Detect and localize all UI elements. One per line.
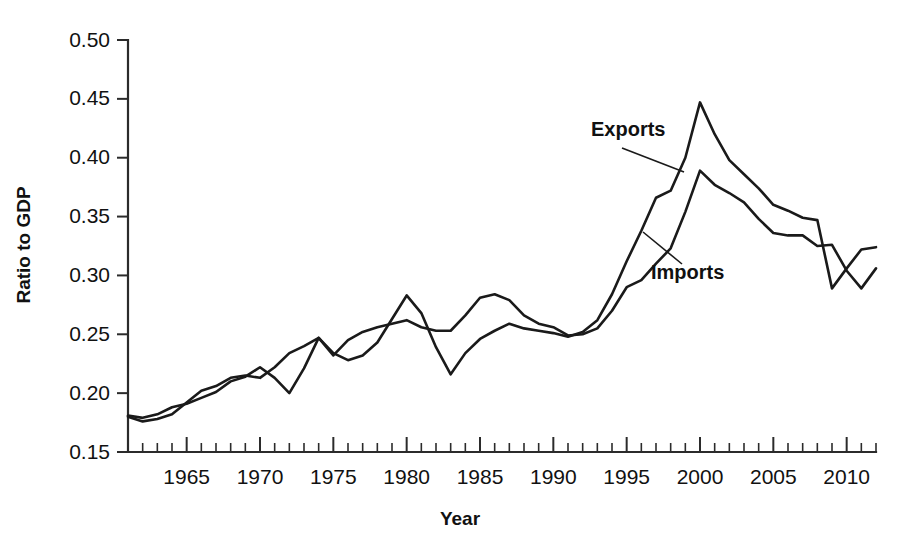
x-tick-label-2000: 2000 [677,465,724,488]
series-line-imports [128,171,876,422]
x-tick-label-1965: 1965 [163,465,210,488]
x-axis-title: Year [440,508,481,529]
y-tick-label-0.30: 0.30 [69,263,110,286]
y-tick-label-0.40: 0.40 [69,145,110,168]
series-label-imports: Imports [651,261,724,283]
y-tick-labels-group: 0.150.200.250.300.350.400.450.50 [69,28,110,463]
series-annotations-group: ExportsImports [591,118,724,283]
x-tick-label-1975: 1975 [310,465,357,488]
axis-ticks-group [117,40,876,452]
chart-figure: 0.150.200.250.300.350.400.450.50 1965197… [0,0,901,542]
x-tick-label-1980: 1980 [383,465,430,488]
x-tick-labels-group: 1965197019751980198519901995200020052010 [163,465,870,488]
series-line-exports [128,102,876,417]
y-tick-label-0.20: 0.20 [69,381,110,404]
y-tick-label-0.45: 0.45 [69,86,110,109]
data-series-group [128,102,876,421]
x-tick-label-2010: 2010 [823,465,870,488]
x-tick-label-1990: 1990 [530,465,577,488]
y-tick-label-0.35: 0.35 [69,204,110,227]
x-tick-label-2005: 2005 [750,465,797,488]
x-tick-label-1995: 1995 [603,465,650,488]
line-chart-svg: 0.150.200.250.300.350.400.450.50 1965197… [0,0,901,542]
y-tick-label-0.50: 0.50 [69,28,110,51]
series-label-exports: Exports [591,118,665,140]
y-tick-label-0.15: 0.15 [69,440,110,463]
leader-line-exports [622,148,684,172]
axis-spines [128,40,876,452]
y-axis-title: Ratio to GDP [13,186,34,303]
axes-group [128,40,876,452]
y-tick-label-0.25: 0.25 [69,322,110,345]
x-tick-label-1985: 1985 [457,465,504,488]
x-tick-label-1970: 1970 [237,465,284,488]
